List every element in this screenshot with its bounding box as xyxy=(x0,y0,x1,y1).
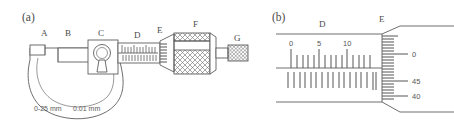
panel-a-label: (a) xyxy=(22,11,35,24)
thimble-edge-ticks xyxy=(160,44,167,62)
panel-b-group: (b) 0 5 10 xyxy=(272,11,454,112)
part-label-e: E xyxy=(157,25,163,35)
panel-b-part-labels: D E xyxy=(319,14,385,29)
figure-root: (a) xyxy=(0,0,454,138)
thimble-number-40: 40 xyxy=(412,92,420,101)
least-count-text: 0.01 mm xyxy=(73,105,100,112)
thimble-scale-numbers-b: 0 45 40 xyxy=(412,50,420,101)
thimble-number-45: 45 xyxy=(412,77,420,86)
sleeve-number-0: 0 xyxy=(289,39,293,48)
sleeve-scale-numbers-b: 0 5 10 xyxy=(289,39,351,48)
part-label-g: G xyxy=(234,33,241,43)
thimble-edge-part xyxy=(160,34,174,72)
part-label-d-b: D xyxy=(319,19,326,29)
anvil-part xyxy=(30,45,45,55)
thimble-ticks-b xyxy=(382,36,398,99)
thimble-number-0: 0 xyxy=(412,50,416,59)
sleeve-lower-ticks-b xyxy=(288,72,376,90)
part-label-e-b: E xyxy=(379,14,385,24)
ratchet-stop-part xyxy=(216,45,248,61)
thimble-leader-lines-b xyxy=(398,54,408,96)
sleeve-upper-ticks-b xyxy=(291,49,370,68)
sleeve-number-10: 10 xyxy=(343,39,351,48)
part-label-c: C xyxy=(98,28,104,38)
lock-nut-part xyxy=(88,40,118,74)
part-label-a: A xyxy=(41,28,48,38)
panel-b-label: (b) xyxy=(272,11,286,24)
micrometer-figure-svg: (a) xyxy=(0,0,454,138)
sleeve-number-5: 5 xyxy=(317,39,321,48)
thimble-part xyxy=(174,33,216,74)
part-label-f: F xyxy=(193,19,198,29)
panel-a-group: (a) xyxy=(22,11,248,119)
part-label-b: B xyxy=(65,28,71,38)
sleeve-barrel-part xyxy=(118,43,160,63)
range-text: 0-25 mm xyxy=(34,105,62,112)
part-label-d: D xyxy=(134,30,141,40)
